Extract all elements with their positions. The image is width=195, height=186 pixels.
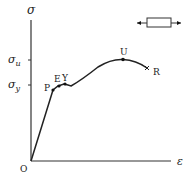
proportional-limit-point: [51, 88, 54, 91]
origin-label: O: [20, 164, 27, 174]
label-u: U: [120, 47, 128, 57]
x-axis-label: ε: [177, 155, 183, 168]
label-y: Y: [61, 73, 69, 83]
ultimate-stress-label: σu: [8, 53, 21, 68]
rupture-cross-icon: [145, 66, 149, 70]
stress-strain-curve: [31, 59, 147, 161]
yield-stress-label: σy: [8, 78, 21, 93]
label-p: P: [44, 83, 50, 93]
label-r: R: [153, 67, 160, 77]
stress-strain-diagram: σ ε O σu σy P E Y U R: [0, 0, 195, 186]
elastic-limit-point: [57, 84, 60, 87]
tensile-specimen-icon: [137, 18, 181, 27]
label-e: E: [54, 74, 61, 84]
y-axis-label: σ: [27, 3, 36, 17]
ultimate-point-marker: [121, 58, 125, 62]
